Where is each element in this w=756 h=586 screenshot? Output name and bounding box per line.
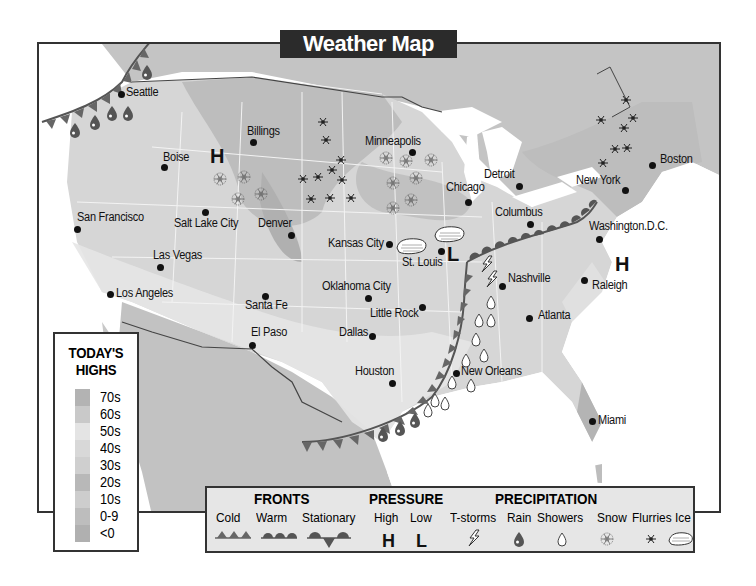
highs-band: 0-9: [55, 508, 141, 525]
low-pressure-marker: L: [447, 244, 459, 264]
stationary-front-icon: [307, 532, 351, 548]
precipitation-overlay: [39, 44, 721, 513]
color-swatch: [75, 423, 90, 440]
highs-band: 20s: [55, 474, 141, 491]
legend-label-low: Low: [410, 510, 432, 525]
high-pressure-marker: H: [615, 254, 629, 274]
color-swatch: [75, 457, 90, 474]
band-label: 0-9: [100, 508, 118, 525]
color-swatch: [75, 440, 90, 457]
svg-text:H: H: [382, 531, 395, 550]
highs-title-line2: HIGHS: [60, 361, 132, 378]
highs-band: 40s: [55, 440, 141, 457]
color-swatch: [75, 474, 90, 491]
high-pressure-marker: H: [210, 146, 224, 166]
legend-symbols: H L: [209, 528, 695, 550]
highs-title-line1: TODAY'S: [60, 344, 132, 361]
map-title: Weather Map: [280, 30, 457, 58]
flurries-icon: [646, 535, 656, 543]
snow-icon: [601, 533, 613, 545]
legend-label-flurries: Flurries: [632, 510, 672, 525]
legend-label-ice: Ice: [675, 510, 691, 525]
legend-label-cold: Cold: [216, 510, 240, 525]
cold-front-icon: [215, 531, 251, 538]
band-label: 70s: [100, 389, 121, 406]
color-swatch: [75, 525, 90, 542]
legend-label-showers: Showers: [537, 510, 583, 525]
band-label: 10s: [100, 491, 121, 508]
legend-label-rain: Rain: [507, 510, 531, 525]
rain-icon: [514, 532, 524, 547]
legend-label-stationary: Stationary: [302, 510, 356, 525]
band-label: 50s: [100, 423, 121, 440]
highs-band: 50s: [55, 423, 141, 440]
legend-label-snow: Snow: [597, 510, 627, 525]
precipitation-heading: PRECIPITATION: [495, 490, 597, 507]
fronts-heading: FRONTS: [254, 490, 310, 507]
highs-band: 30s: [55, 457, 141, 474]
color-swatch: [75, 508, 90, 525]
highs-band: 60s: [55, 406, 141, 423]
band-label: 20s: [100, 474, 121, 491]
legend-label-high: High: [374, 510, 398, 525]
legend-label-warm: Warm: [256, 510, 287, 525]
symbol-legend: FRONTS Cold Warm Stationary PRESSURE Hig…: [205, 486, 695, 553]
showers-icon: [558, 533, 566, 546]
pressure-heading: PRESSURE: [369, 490, 443, 507]
highs-band: 10s: [55, 491, 141, 508]
color-swatch: [75, 491, 90, 508]
highs-band: <0: [55, 525, 141, 542]
band-label: 40s: [100, 440, 121, 457]
high-pressure-icon: H: [382, 531, 395, 550]
color-swatch: [75, 406, 90, 423]
highs-band: 70s: [55, 389, 141, 406]
low-pressure-icon: L: [416, 531, 427, 550]
band-label: 30s: [100, 457, 121, 474]
tstorm-icon: [469, 530, 479, 546]
band-label: <0: [100, 525, 115, 542]
todays-highs-legend: TODAY'S HIGHS 70s60s50s40s30s20s10s0-9<0: [53, 332, 139, 552]
legend-label-tstorms: T-storms: [450, 510, 496, 525]
ice-icon: [669, 533, 692, 545]
band-label: 60s: [100, 406, 121, 423]
warm-front-icon: [261, 533, 297, 538]
color-swatch: [75, 389, 90, 406]
svg-text:L: L: [416, 531, 427, 550]
